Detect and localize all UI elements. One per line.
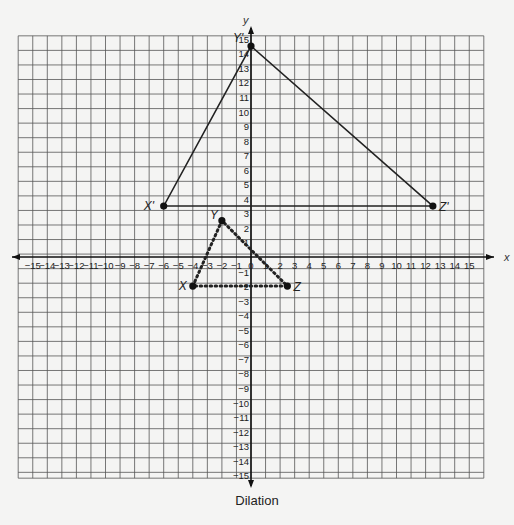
y-tick-label: −8 bbox=[238, 368, 249, 379]
x-tick-label: −6 bbox=[158, 260, 169, 271]
image-triangle-xpypzp: X'Y'Z' bbox=[143, 31, 450, 214]
vertex-label: Z bbox=[292, 280, 301, 294]
x-tick-label: −8 bbox=[129, 260, 140, 271]
x-tick-label: 8 bbox=[365, 260, 370, 271]
y-tick-label: −11 bbox=[234, 412, 249, 423]
y-tick-label: 10 bbox=[238, 107, 249, 118]
y-tick-label: 2 bbox=[244, 223, 249, 234]
vertex-point bbox=[429, 202, 436, 209]
figure-caption: Dilation bbox=[0, 493, 514, 508]
y-tick-label: 9 bbox=[244, 121, 249, 132]
x-tick-label: 12 bbox=[420, 260, 431, 271]
x-tick-label: −11 bbox=[83, 260, 98, 271]
x-tick-label: 7 bbox=[350, 260, 355, 271]
dilation-figure: xy−15−14−13−12−11−10−9−8−7−6−5−4−3−2−101… bbox=[0, 0, 514, 525]
x-tick-label: −7 bbox=[144, 260, 155, 271]
vertex-label: X' bbox=[143, 199, 155, 213]
y-tick-label: −9 bbox=[238, 383, 249, 394]
coordinate-plane: xy−15−14−13−12−11−10−9−8−7−6−5−4−3−2−101… bbox=[0, 0, 514, 490]
vertex-point bbox=[160, 202, 167, 209]
x-tick-label: 15 bbox=[464, 260, 475, 271]
y-tick-label: −6 bbox=[238, 339, 249, 350]
x-tick-label: 13 bbox=[435, 260, 446, 271]
y-tick-label: −3 bbox=[238, 296, 249, 307]
x-tick-label: 11 bbox=[406, 260, 416, 271]
y-tick-label: −1 bbox=[238, 267, 249, 278]
triangle-outline bbox=[164, 46, 433, 206]
x-tick-label: 0 bbox=[248, 260, 253, 271]
x-tick-label: 4 bbox=[307, 260, 312, 271]
x-tick-label: −4 bbox=[187, 260, 198, 271]
y-tick-label: 4 bbox=[244, 194, 249, 205]
y-axis-label: y bbox=[242, 14, 250, 26]
y-tick-label: −14 bbox=[233, 456, 249, 467]
vertex-label: X bbox=[178, 279, 188, 293]
y-tick-label: −5 bbox=[238, 325, 249, 336]
x-tick-label: −2 bbox=[216, 260, 227, 271]
y-tick-label: −12 bbox=[233, 427, 249, 438]
y-tick-label: 7 bbox=[244, 150, 249, 161]
y-tick-label: 6 bbox=[244, 165, 249, 176]
x-tick-label: 14 bbox=[449, 260, 460, 271]
vertex-point bbox=[218, 217, 225, 224]
x-tick-label: 5 bbox=[321, 260, 326, 271]
y-tick-label: 11 bbox=[239, 92, 249, 103]
y-tick-label: −13 bbox=[233, 441, 249, 452]
x-axis-arrow-left bbox=[12, 254, 20, 260]
y-tick-label: −10 bbox=[233, 398, 249, 409]
x-tick-label: −12 bbox=[68, 260, 84, 271]
y-tick-label: 12 bbox=[238, 77, 249, 88]
y-tick-label: −15 bbox=[233, 470, 249, 481]
vertex-point bbox=[284, 283, 291, 290]
y-tick-label: 3 bbox=[244, 208, 249, 219]
vertex-label: Y' bbox=[233, 31, 244, 45]
y-tick-label: −4 bbox=[238, 310, 249, 321]
x-tick-label: 10 bbox=[391, 260, 402, 271]
y-tick-label: −7 bbox=[238, 354, 249, 365]
y-tick-label: 5 bbox=[244, 179, 249, 190]
x-tick-label: −10 bbox=[97, 260, 113, 271]
x-axis-arrow-right bbox=[486, 254, 494, 260]
x-tick-label: 9 bbox=[379, 260, 384, 271]
y-tick-label: 13 bbox=[238, 63, 249, 74]
vertex-label: Z' bbox=[438, 200, 449, 214]
x-tick-label: 3 bbox=[292, 260, 297, 271]
vertex-point bbox=[247, 42, 254, 49]
x-tick-label: −9 bbox=[115, 260, 126, 271]
x-tick-label: 2 bbox=[277, 260, 282, 271]
vertex-label: Y bbox=[210, 208, 219, 222]
x-tick-label: 6 bbox=[336, 260, 341, 271]
x-axis-label: x bbox=[503, 251, 510, 263]
y-tick-label: 8 bbox=[244, 136, 249, 147]
x-tick-label: −5 bbox=[173, 260, 184, 271]
vertex-point bbox=[189, 283, 196, 290]
